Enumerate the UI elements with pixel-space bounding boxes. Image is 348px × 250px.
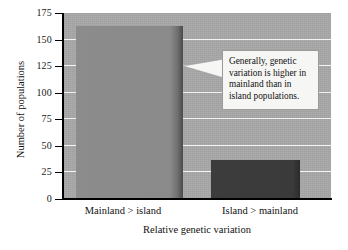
y-axis-tick xyxy=(55,119,63,120)
y-axis-tick xyxy=(55,199,63,200)
x-axis-title: Relative genetic variation xyxy=(63,224,331,235)
y-tick-label-175: 175 xyxy=(36,8,52,18)
y-tick-label-125: 125 xyxy=(36,61,52,71)
y-tick-label-50: 50 xyxy=(42,141,52,151)
y-tick-label-75: 75 xyxy=(42,114,52,124)
y-tick-label-25: 25 xyxy=(42,167,52,177)
bar-chart-figure: Number of populations Mainland > island … xyxy=(0,0,348,250)
y-tick-label-150: 150 xyxy=(36,35,52,45)
y-axis-tick xyxy=(55,66,63,67)
bar-mainland-island xyxy=(76,26,183,199)
y-tick-label-0: 0 xyxy=(47,194,52,204)
y-axis-tick xyxy=(55,40,63,41)
y-axis-tick xyxy=(55,13,63,14)
bar-island-mainland xyxy=(211,160,300,199)
y-axis-tick xyxy=(55,146,63,147)
x-axis-line xyxy=(62,198,332,200)
x-tick-label-mainland-greater-island: Mainland > island xyxy=(68,205,178,216)
y-axis-tick xyxy=(55,93,63,94)
y-axis-tick xyxy=(55,172,63,173)
y-tick-label-100: 100 xyxy=(36,88,52,98)
x-tick-label-island-greater-mainland: Island > mainland xyxy=(205,205,315,216)
y-axis-title: Number of populations xyxy=(15,30,26,190)
callout-annotation: Generally, genetic variation is higher i… xyxy=(222,50,319,110)
